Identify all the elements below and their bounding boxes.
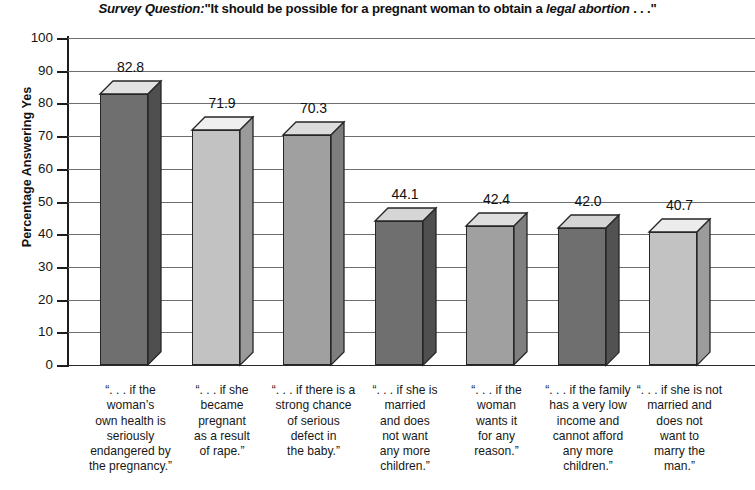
y-axis-tick xyxy=(57,332,68,334)
category-label-line: “. . . if she is not xyxy=(622,383,737,398)
bar xyxy=(466,213,514,365)
bar xyxy=(192,117,240,365)
bar-front-face xyxy=(649,232,697,365)
bar-value-label: 44.1 xyxy=(361,187,450,201)
y-axis-tick xyxy=(57,71,68,73)
y-axis-tick xyxy=(57,267,68,269)
category-label-line: want to xyxy=(622,429,737,444)
bar xyxy=(375,208,423,365)
bar-top-face xyxy=(283,122,331,135)
y-axis-tick xyxy=(57,136,68,138)
bar-top-face xyxy=(558,215,606,228)
bar-top-face xyxy=(192,117,240,130)
gridline xyxy=(68,136,755,137)
y-axis-tick-label: 20 xyxy=(7,293,53,306)
y-axis-tick-label: 40 xyxy=(7,227,53,240)
category-label-line: the pregnancy.” xyxy=(73,459,188,474)
category-label-line: children.” xyxy=(348,459,463,474)
y-axis-tick-label: 80 xyxy=(7,96,53,109)
bar-top-face xyxy=(375,208,423,221)
bar-front-face xyxy=(100,94,148,365)
category-label-line: does not xyxy=(622,414,737,429)
bar-side-face xyxy=(423,208,436,365)
y-axis-tick xyxy=(57,103,68,105)
bar-front-face xyxy=(558,228,606,365)
y-axis-tick-label: 10 xyxy=(7,325,53,338)
plot-area: 1009080706050403020100 82.871.970.344.14… xyxy=(0,0,755,380)
y-axis-tick-label: 90 xyxy=(7,64,53,77)
category-label-line: man.” xyxy=(622,459,737,474)
gridline xyxy=(68,38,755,39)
y-axis-tick xyxy=(57,38,68,40)
category-label-line: marry the xyxy=(622,444,737,459)
bar-side-face xyxy=(331,122,344,365)
bar-value-label: 40.7 xyxy=(635,198,724,212)
category-label-line: married and xyxy=(622,398,737,413)
bar-front-face xyxy=(283,135,331,365)
bar xyxy=(558,215,606,365)
y-axis-tick xyxy=(57,202,68,204)
y-axis-tick-label: 30 xyxy=(7,260,53,273)
bar-value-label: 70.3 xyxy=(269,101,358,115)
bar-value-label: 42.0 xyxy=(544,194,633,208)
bar-front-face xyxy=(192,130,240,365)
bar-front-face xyxy=(466,226,514,365)
bar-value-label: 82.8 xyxy=(86,60,175,74)
y-axis-tick xyxy=(57,234,68,236)
bar xyxy=(283,122,331,365)
bar-side-face xyxy=(514,213,527,365)
bar-chart: Survey Question:"It should be possible f… xyxy=(0,0,755,490)
y-axis-tick-label: 100 xyxy=(7,31,53,44)
bar-top-face xyxy=(649,219,697,232)
y-axis-tick-label: 70 xyxy=(7,129,53,142)
bar-side-face xyxy=(148,81,161,365)
gridline xyxy=(68,365,755,366)
y-axis-tick-label: 60 xyxy=(7,162,53,175)
bar-side-face xyxy=(697,219,710,365)
bar-top-face xyxy=(100,81,148,94)
bar-value-label: 71.9 xyxy=(178,96,267,110)
y-axis-tick xyxy=(57,365,68,367)
x-axis-category-label: “. . . if she is notmarried anddoes notw… xyxy=(622,383,737,475)
bar-side-face xyxy=(240,117,253,365)
bar xyxy=(649,219,697,365)
y-axis-tick-label: 50 xyxy=(7,195,53,208)
bar-top-face xyxy=(466,213,514,226)
gridline xyxy=(68,169,755,170)
bar-front-face xyxy=(375,221,423,365)
bar xyxy=(100,81,148,365)
y-axis-tick-label: 0 xyxy=(7,358,53,371)
bar-value-label: 42.4 xyxy=(452,192,541,206)
bar-side-face xyxy=(606,215,619,365)
y-axis-tick xyxy=(57,169,68,171)
y-axis-tick xyxy=(57,300,68,302)
gridline xyxy=(68,103,755,104)
